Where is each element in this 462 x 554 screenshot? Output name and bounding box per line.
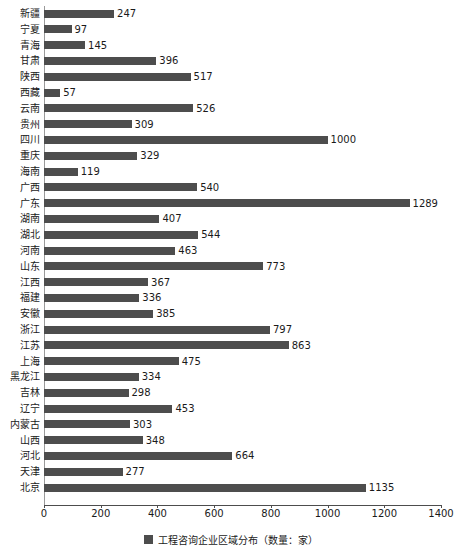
bar xyxy=(44,294,139,302)
bar xyxy=(44,136,328,144)
category-label: 浙江 xyxy=(20,322,44,338)
category-label: 湖北 xyxy=(20,227,44,243)
bar-value-label: 526 xyxy=(193,101,215,117)
bar xyxy=(44,262,263,270)
bar xyxy=(44,183,197,191)
category-label: 山东 xyxy=(20,259,44,275)
category-label: 江西 xyxy=(20,275,44,291)
bar xyxy=(44,278,148,286)
bar-value-label: 277 xyxy=(123,464,145,480)
category-label: 广西 xyxy=(20,180,44,196)
bar xyxy=(44,310,153,318)
bar-value-label: 247 xyxy=(114,6,136,22)
category-label: 江苏 xyxy=(20,338,44,354)
bar-value-label: 348 xyxy=(143,433,165,449)
bar-value-label: 664 xyxy=(232,448,254,464)
bar-row: 海南119 xyxy=(0,164,462,180)
bar-track: 797 xyxy=(44,322,462,338)
category-label: 上海 xyxy=(20,354,44,370)
bar-value-label: 396 xyxy=(156,53,178,69)
bar-value-label: 407 xyxy=(159,211,181,227)
x-tick-label: 1000 xyxy=(315,508,340,519)
category-label: 辽宁 xyxy=(20,401,44,417)
bar-value-label: 463 xyxy=(175,243,197,259)
bar-track: 145 xyxy=(44,38,462,54)
bar-track: 336 xyxy=(44,290,462,306)
bar-track: 309 xyxy=(44,117,462,133)
bar-track: 773 xyxy=(44,259,462,275)
bar-value-label: 303 xyxy=(130,417,152,433)
bar xyxy=(44,152,137,160)
bar xyxy=(44,341,289,349)
bar-track: 303 xyxy=(44,417,462,433)
bar xyxy=(44,405,172,413)
bar-value-label: 309 xyxy=(132,117,154,133)
bar-row: 广西540 xyxy=(0,180,462,196)
bar-value-label: 329 xyxy=(137,148,159,164)
bar-row: 陕西517 xyxy=(0,69,462,85)
bar xyxy=(44,247,175,255)
bar-row: 江苏863 xyxy=(0,338,462,354)
bar-track: 57 xyxy=(44,85,462,101)
bar-track: 367 xyxy=(44,275,462,291)
bar-track: 298 xyxy=(44,385,462,401)
bar-value-label: 334 xyxy=(139,369,161,385)
category-label: 四川 xyxy=(20,132,44,148)
category-label: 西藏 xyxy=(20,85,44,101)
bar-value-label: 298 xyxy=(129,385,151,401)
bar-value-label: 1000 xyxy=(328,132,356,148)
bar-value-label: 517 xyxy=(191,69,213,85)
bar-row: 西藏57 xyxy=(0,85,462,101)
bar xyxy=(44,89,60,97)
bar-row: 宁夏97 xyxy=(0,22,462,38)
bar-row: 新疆247 xyxy=(0,6,462,22)
bar-row: 贵州309 xyxy=(0,117,462,133)
x-tick-label: 1400 xyxy=(428,508,453,519)
bar xyxy=(44,41,85,49)
bar-rows: 新疆247宁夏97青海145甘肃396陕西517西藏57云南526贵州309四川… xyxy=(0,6,462,496)
bar-row: 上海475 xyxy=(0,354,462,370)
bar-track: 544 xyxy=(44,227,462,243)
bar-row: 浙江797 xyxy=(0,322,462,338)
category-label: 黑龙江 xyxy=(10,369,44,385)
bar-row: 江西367 xyxy=(0,275,462,291)
category-label: 北京 xyxy=(20,480,44,496)
bar-row: 内蒙古303 xyxy=(0,417,462,433)
bar xyxy=(44,168,78,176)
category-label: 重庆 xyxy=(20,148,44,164)
bar-row: 天津277 xyxy=(0,464,462,480)
bar-row: 河北664 xyxy=(0,448,462,464)
bar-value-label: 367 xyxy=(148,275,170,291)
bar xyxy=(44,436,143,444)
bar-row: 湖北544 xyxy=(0,227,462,243)
bar-row: 重庆329 xyxy=(0,148,462,164)
category-label: 广东 xyxy=(20,196,44,212)
category-label: 贵州 xyxy=(20,117,44,133)
bar-row: 黑龙江334 xyxy=(0,369,462,385)
bar-row: 广东1289 xyxy=(0,196,462,212)
bar xyxy=(44,452,232,460)
bar xyxy=(44,10,114,18)
category-label: 山西 xyxy=(20,433,44,449)
bar-value-label: 453 xyxy=(172,401,194,417)
bar xyxy=(44,57,156,65)
plot-area: 新疆247宁夏97青海145甘肃396陕西517西藏57云南526贵州309四川… xyxy=(0,0,462,510)
bar xyxy=(44,484,366,492)
bar-row: 青海145 xyxy=(0,38,462,54)
bar xyxy=(44,326,270,334)
category-label: 安徽 xyxy=(20,306,44,322)
bar-track: 348 xyxy=(44,433,462,449)
legend-swatch-icon xyxy=(144,535,153,544)
bar xyxy=(44,373,139,381)
category-label: 青海 xyxy=(20,38,44,54)
bar xyxy=(44,199,410,207)
bar-value-label: 119 xyxy=(78,164,100,180)
bar-value-label: 863 xyxy=(289,338,311,354)
bar-track: 334 xyxy=(44,369,462,385)
bar xyxy=(44,73,191,81)
bar-track: 385 xyxy=(44,306,462,322)
x-tick-label: 600 xyxy=(205,508,224,519)
chart-legend: 工程咨询企业区域分布（数量：家） xyxy=(0,529,462,549)
bar-value-label: 544 xyxy=(198,227,220,243)
bar-row: 安徽385 xyxy=(0,306,462,322)
